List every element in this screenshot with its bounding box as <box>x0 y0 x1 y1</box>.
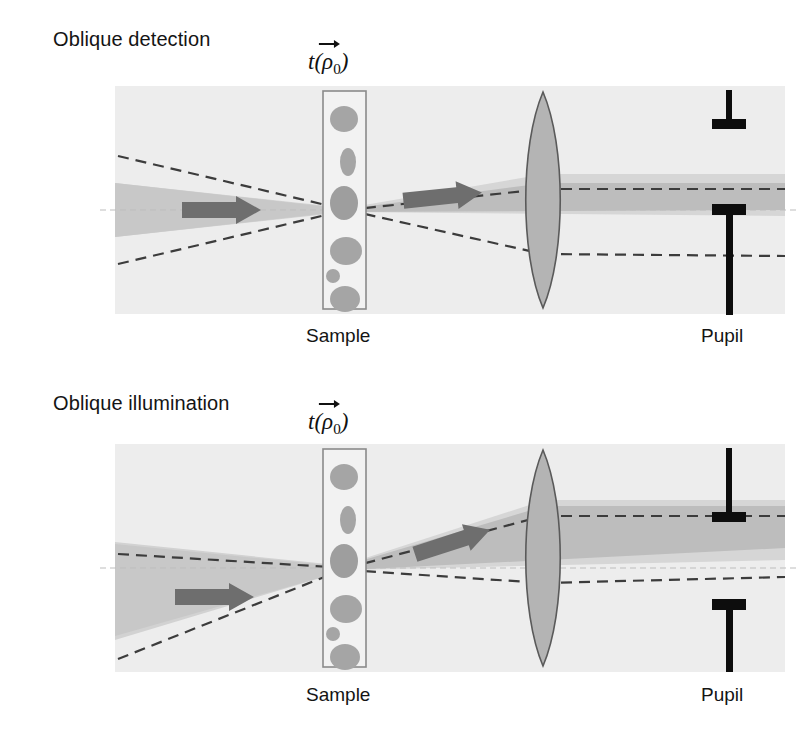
rho-subscript: 0 <box>333 60 341 77</box>
diagram-canvas-bottom <box>0 444 809 704</box>
panel-title-oblique-detection: Oblique detection <box>53 28 210 51</box>
sample-particle <box>330 595 362 623</box>
sample-particle <box>326 627 340 641</box>
vector-arrow-icon <box>318 43 338 45</box>
sample-particle <box>330 544 358 578</box>
sample-particle <box>326 269 340 283</box>
diagram-canvas-top <box>0 86 809 346</box>
paren-close: ) <box>341 49 349 74</box>
pupil-caption-bottom: Pupil <box>701 684 743 706</box>
panel-title-oblique-illumination: Oblique illumination <box>53 392 230 415</box>
paren-open: ( <box>314 409 322 434</box>
sample-particle <box>330 186 358 220</box>
pupil-caption-top: Pupil <box>701 325 743 347</box>
sample-particle <box>330 464 358 490</box>
sample-particle <box>330 106 358 132</box>
sample-caption-top: Sample <box>306 325 370 347</box>
sample-transmittance-label-bottom: t(ρ0) <box>308 410 349 436</box>
paren-open: ( <box>314 49 322 74</box>
sample-particle <box>340 506 356 534</box>
sample-particle <box>340 148 356 176</box>
sample-caption-bottom: Sample <box>306 684 370 706</box>
rho-subscript: 0 <box>333 420 341 437</box>
rho-vector-symbol: ρ <box>322 50 333 73</box>
paren-close: ) <box>341 409 349 434</box>
sample-particle <box>330 237 362 265</box>
sample-transmittance-label-top: t(ρ0) <box>308 50 349 76</box>
sample-particle <box>330 286 360 312</box>
sample-particle <box>330 644 360 670</box>
rho-vector-symbol: ρ <box>322 410 333 433</box>
vector-arrow-icon <box>318 403 338 405</box>
optics-figure: Oblique detection t(ρ0) Fi F0 <box>0 0 809 731</box>
